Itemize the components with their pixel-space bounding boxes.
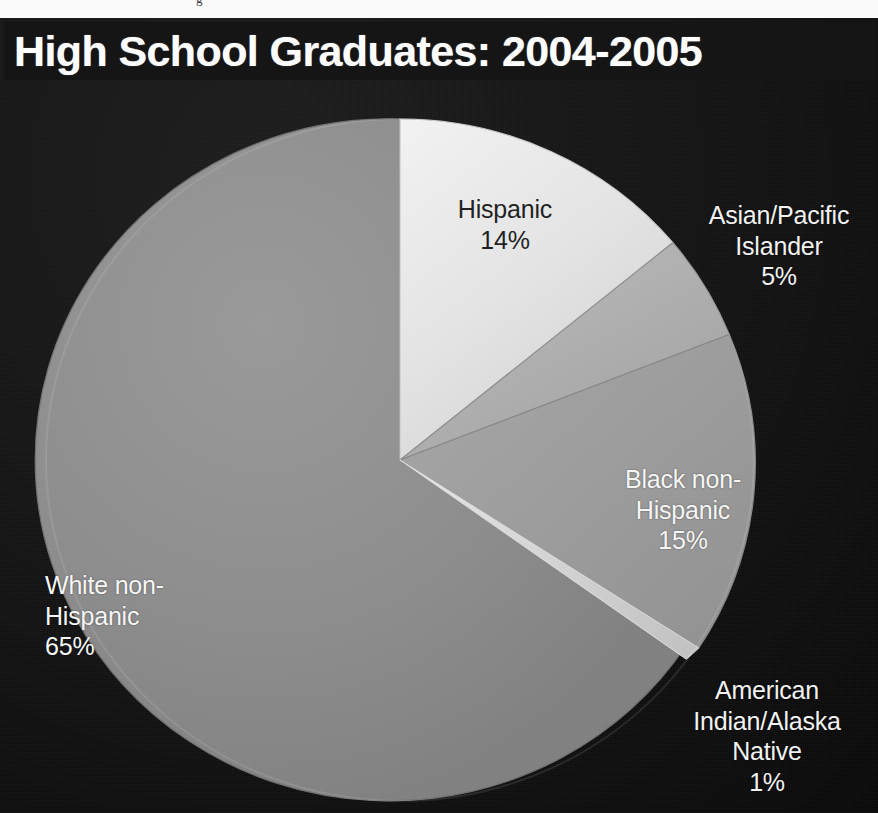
chart-title-bar: High School Graduates: 2004-2005 [4,22,874,80]
slice-label-black-non-hispanic: Black non- Hispanic 15% [588,464,778,556]
chart-page: g [0,0,878,813]
chart-canvas: Hispanic 14% Asian/Pacific Islander 5% B… [0,18,878,813]
page-title: High School Graduates: 2004-2005 [4,30,702,73]
slice-label-asian-pacific-islander: Asian/Pacific Islander 5% [685,200,873,292]
slice-label-white-non-hispanic: White non- Hispanic 65% [45,570,259,662]
slice-label-hispanic: Hispanic 14% [410,194,600,255]
cropped-text-remnant: g [196,0,203,7]
slice-label-american-indian-alaska-native: American Indian/Alaska Native 1% [664,675,870,797]
scan-top-strip: g [0,0,878,18]
